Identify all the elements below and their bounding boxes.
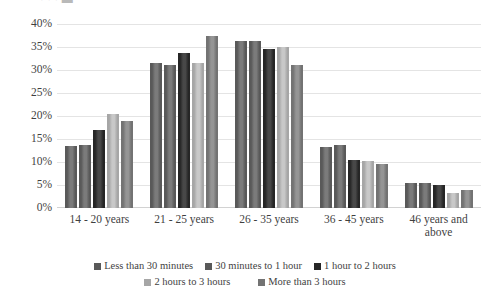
bar-fill [178,53,190,208]
bar[interactable] [447,193,459,208]
legend-item[interactable]: 1 hour to 2 hours [314,258,396,274]
bar[interactable] [65,146,77,208]
legend-swatch-icon [314,263,321,270]
y-axis-tick-label: 10% [4,156,52,168]
bar[interactable] [461,190,473,208]
bar-fill [461,190,473,208]
legend-label: 30 minutes to 1 hour [215,258,302,274]
bar-fill [376,164,388,208]
x-axis-category-label: 21 - 25 years [142,213,227,239]
bar[interactable] [376,164,388,208]
bar-group [311,24,396,208]
bar-fill [192,63,204,208]
bar-groups [57,24,481,208]
legend-swatch-icon [205,263,212,270]
bar-fill [320,147,332,208]
bar[interactable] [164,65,176,208]
bar[interactable] [277,47,289,208]
legend-swatch-icon [258,279,265,286]
bar-fill [447,193,459,208]
y-axis-tick-label: 15% [4,133,52,145]
bar-group [396,24,481,208]
chart-legend: Less than 30 minutes30 minutes to 1 hour… [0,258,490,290]
bar[interactable] [433,185,445,208]
y-axis-tick-label: 0% [4,202,52,214]
bar[interactable] [348,160,360,208]
bar[interactable] [263,49,275,208]
legend-swatch-icon [94,263,101,270]
legend-swatch-icon [144,279,151,286]
bar[interactable] [419,183,431,208]
bar-fill [348,160,360,208]
x-axis-category-label: 14 - 20 years [57,213,142,239]
bar[interactable] [235,41,247,208]
bar-group [142,24,227,208]
bar[interactable] [320,147,332,208]
legend-item[interactable]: Less than 30 minutes [94,258,193,274]
legend-row-2: 2 hours to 3 hoursMore than 3 hours [0,274,490,290]
legend-item[interactable]: 30 minutes to 1 hour [205,258,302,274]
legend-item[interactable]: More than 3 hours [258,274,345,290]
bar-fill [433,185,445,208]
bar[interactable] [178,53,190,208]
bar[interactable] [150,63,162,208]
bar[interactable] [107,114,119,208]
bar-fill [263,49,275,208]
bar-fill [93,130,105,208]
bar[interactable] [79,145,91,208]
bar-group [57,24,142,208]
legend-label: 1 hour to 2 hours [324,258,396,274]
bar[interactable] [249,41,261,208]
y-axis: 0%5%10%15%20%25%30%35%40% [0,24,52,208]
bar[interactable] [291,65,303,208]
bar-fill [235,41,247,208]
x-axis-category-label: 46 years and above [396,213,481,239]
bar[interactable] [362,161,374,208]
bar[interactable] [121,121,133,208]
legend-row-1: Less than 30 minutes30 minutes to 1 hour… [0,258,490,274]
y-axis-tick-label: 20% [4,110,52,122]
bar-fill [65,146,77,208]
bar-fill [164,65,176,208]
bar-fill [334,145,346,208]
bar[interactable] [206,36,218,209]
y-axis-tick-label: 35% [4,41,52,53]
bar-fill [405,183,417,208]
bar-fill [249,41,261,208]
bar-fill [121,121,133,208]
x-axis-category-label: 36 - 45 years [311,213,396,239]
bar-fill [362,161,374,208]
y-axis-tick-label: 25% [4,87,52,99]
bar-chart: · · · ▬ 0%5%10%15%20%25%30%35%40% 14 - 2… [0,0,490,308]
bar[interactable] [93,130,105,208]
cropped-title-text: · · · ▬ [40,0,73,5]
x-axis-labels: 14 - 20 years21 - 25 years26 - 35 years3… [57,213,481,239]
bar[interactable] [405,183,417,208]
y-axis-tick-label: 5% [4,179,52,191]
y-axis-tick-label: 40% [4,18,52,30]
cropped-title-sliver: · · · ▬ [0,0,490,9]
bar-fill [150,63,162,208]
bar[interactable] [192,63,204,208]
bar-group [227,24,312,208]
bar[interactable] [334,145,346,208]
bar-fill [107,114,119,208]
legend-label: 2 hours to 3 hours [154,274,230,290]
legend-label: Less than 30 minutes [104,258,193,274]
bar-fill [291,65,303,208]
bar-fill [277,47,289,208]
y-axis-tick-label: 30% [4,64,52,76]
legend-item[interactable]: 2 hours to 3 hours [144,274,230,290]
bar-fill [206,36,218,209]
legend-label: More than 3 hours [268,274,345,290]
bar-fill [419,183,431,208]
bar-fill [79,145,91,208]
x-axis-category-label: 26 - 35 years [227,213,312,239]
